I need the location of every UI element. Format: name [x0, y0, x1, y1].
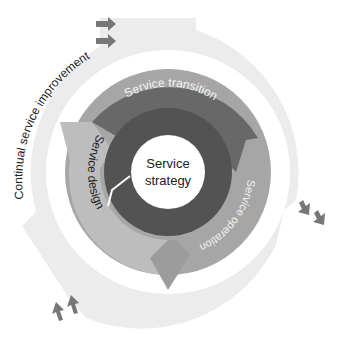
output-arrows-icon — [298, 200, 325, 225]
center-label-line2: strategy — [145, 173, 192, 188]
center-label-line1: Service — [146, 156, 189, 171]
itil-service-lifecycle-diagram: Service strategy Service transition Serv… — [0, 0, 339, 338]
strategy-center — [131, 135, 205, 209]
